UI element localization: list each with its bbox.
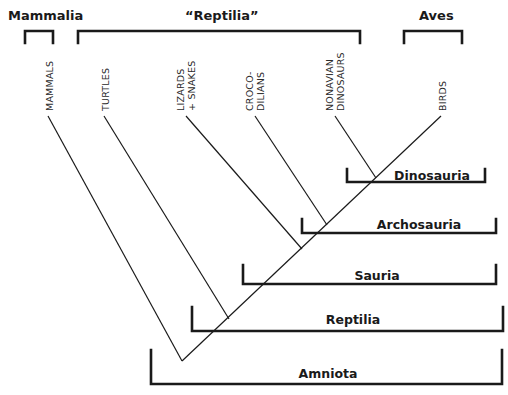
taxon-turtles: TURTLES [100, 68, 111, 112]
top-group-aves: Aves [404, 8, 462, 43]
taxon-mammals: MAMMALS [44, 61, 55, 111]
main-spine-branch [182, 116, 441, 361]
taxon-label: DILIANS [255, 72, 266, 111]
branch-nonavian-dinosaurs [335, 116, 376, 178]
taxon-label: LIZARDS [175, 69, 186, 111]
clade-amniota: Amniota [151, 350, 502, 384]
clade-label: Sauria [354, 268, 399, 283]
clade-brackets: DinosauriaArchosauriaSauriaReptiliaAmnio… [151, 168, 503, 384]
top-group-mammalia: Mammalia [8, 8, 83, 43]
clade-label: Dinosauria [394, 168, 470, 183]
top-group-brackets: Mammalia“Reptilia”Aves [8, 8, 462, 43]
taxon-label: BIRDS [437, 81, 448, 111]
taxon-label: CROCO- [244, 71, 255, 111]
top-group-reptilia-paraphyletic: “Reptilia” [78, 8, 360, 43]
branch-crocodilians [255, 116, 327, 225]
taxon-birds: BIRDS [437, 81, 448, 111]
branch-turtles [104, 116, 229, 319]
taxon-label: DINOSAURS [335, 52, 346, 111]
taxon-lizards-snakes: LIZARDS+ SNAKES [175, 61, 197, 111]
top-group-bracket [78, 31, 360, 43]
clade-label: Amniota [299, 366, 358, 381]
taxon-label: + SNAKES [186, 61, 197, 111]
top-group-label: Aves [419, 8, 454, 23]
top-group-label: Mammalia [8, 8, 83, 23]
top-group-label: “Reptilia” [185, 8, 259, 23]
clade-reptilia: Reptilia [192, 307, 503, 331]
taxon-label: MAMMALS [44, 61, 55, 111]
taxon-label: TURTLES [100, 68, 111, 112]
clade-label: Reptilia [326, 312, 380, 327]
top-group-bracket [404, 31, 462, 43]
clade-dinosauria: Dinosauria [347, 168, 485, 183]
tree-branches [48, 116, 441, 361]
mammal-branch [48, 116, 182, 361]
cladogram: Mammalia“Reptilia”Aves MAMMALSTURTLESLIZ… [0, 0, 508, 395]
branch-lizards-snakes [186, 116, 302, 249]
top-group-bracket [25, 31, 53, 43]
taxon-label: NONAVIAN [324, 59, 335, 111]
taxon-nonavian-dinosaurs: NONAVIANDINOSAURS [324, 52, 346, 111]
taxon-crocodilians: CROCO-DILIANS [244, 71, 266, 111]
taxon-labels: MAMMALSTURTLESLIZARDS+ SNAKESCROCO-DILIA… [44, 52, 448, 112]
clade-label: Archosauria [377, 217, 461, 232]
